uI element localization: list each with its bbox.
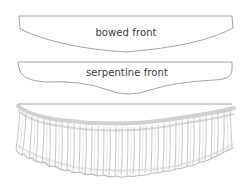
bowed-front-label: bowed front <box>95 27 156 38</box>
gathered-valance-shape <box>16 104 234 177</box>
serpentine-front-label: serpentine front <box>86 67 168 78</box>
